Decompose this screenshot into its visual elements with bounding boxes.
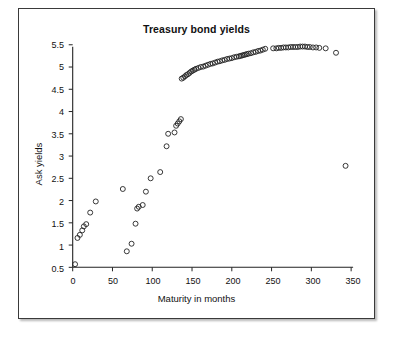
data-point	[129, 241, 134, 246]
data-point	[158, 170, 163, 175]
data-point	[143, 189, 148, 194]
data-point	[343, 163, 348, 168]
scatter-plot-canvas	[19, 9, 374, 318]
data-point	[164, 144, 169, 149]
data-point	[323, 46, 328, 51]
data-point	[93, 199, 98, 204]
data-point	[334, 50, 339, 55]
data-point	[317, 45, 322, 50]
data-point	[120, 187, 125, 192]
data-point	[148, 176, 153, 181]
data-point	[166, 131, 171, 136]
data-point	[133, 221, 138, 226]
data-point	[88, 210, 93, 215]
data-point	[124, 249, 129, 254]
figure-frame: Treasury bond yields Ask yields Maturity…	[18, 8, 375, 319]
data-point	[172, 130, 177, 135]
data-point	[73, 262, 78, 267]
